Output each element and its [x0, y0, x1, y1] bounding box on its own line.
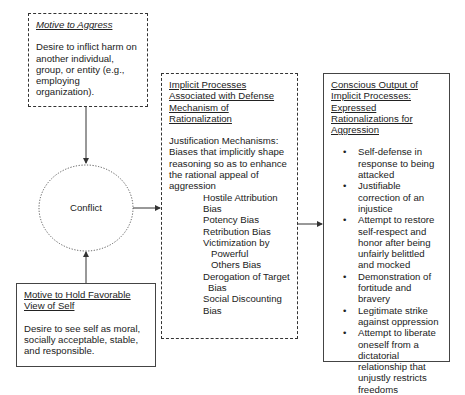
implicit-processes-title: Implicit Processes Associated with Defen…: [169, 79, 290, 124]
list-item: Justifiable correction of an injustice: [331, 180, 442, 214]
bias-derogation-cont1: Bias: [169, 282, 290, 293]
bias-derogation: Derogation of Target: [169, 271, 290, 282]
motive-to-aggress-title: Motive to Aggress: [36, 19, 140, 30]
justification-intro: Justification Mechanisms: Biases that im…: [169, 135, 290, 191]
list-item: Attempt to liberate oneself from a dicta…: [331, 327, 442, 395]
conscious-output-title: Conscious Output of Implicit Processes: …: [331, 79, 442, 135]
motive-self-view-body: Desire to see self as moral, socially ac…: [24, 323, 148, 357]
rationalization-list: Self-defense in response to being attack…: [331, 146, 442, 395]
motive-to-aggress-body: Desire to inflict harm on another indivi…: [36, 41, 140, 97]
list-item: Self-defense in response to being attack…: [331, 146, 442, 180]
motive-to-aggress-box: Motive to Aggress Desire to inflict harm…: [28, 13, 148, 107]
bias-hostile-attribution: Hostile Attribution Bias: [169, 192, 290, 215]
list-item: Legitimate strike against oppression: [331, 305, 442, 328]
conflict-label: Conflict: [38, 202, 134, 213]
bias-social-discounting: Social Discounting Bias: [169, 293, 290, 316]
conscious-output-box: Conscious Output of Implicit Processes: …: [323, 73, 450, 362]
bias-victimization: Victimization by: [169, 237, 290, 248]
motive-self-view-box: Motive to Hold Favorable View of Self De…: [16, 283, 156, 367]
bias-victimization-cont2: Others Bias: [169, 259, 290, 270]
motive-self-view-title: Motive to Hold Favorable View of Self: [24, 289, 148, 312]
list-item: Demonstration of fortitude and bravery: [331, 271, 442, 305]
implicit-processes-box: Implicit Processes Associated with Defen…: [161, 73, 298, 339]
bias-potency: Potency Bias: [169, 214, 290, 225]
bias-retribution: Retribution Bias: [169, 226, 290, 237]
list-item: Attempt to restore self-respect and hono…: [331, 214, 442, 270]
bias-victimization-cont1: Powerful: [169, 248, 290, 259]
